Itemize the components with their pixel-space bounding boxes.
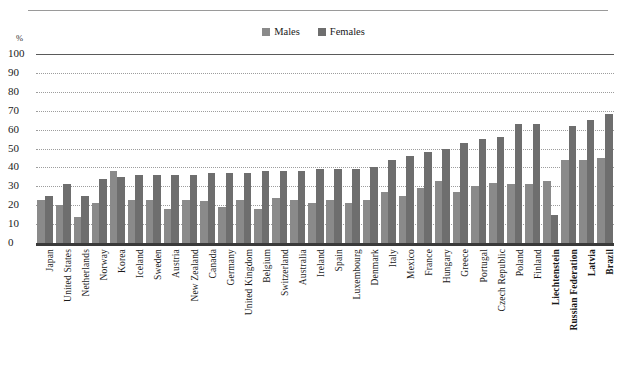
top-rule: [28, 10, 608, 11]
bar-females: [81, 196, 89, 243]
bar-males: [399, 196, 407, 243]
bar-females: [334, 169, 342, 243]
bar-males: [417, 188, 425, 243]
bar-group: [162, 54, 180, 243]
x-axis-label-cell: Canada: [199, 247, 217, 372]
bar-females: [262, 171, 270, 243]
bar-group: [90, 54, 108, 243]
y-tick-label: 90: [8, 67, 34, 78]
bar-males: [182, 200, 190, 243]
bar-group: [343, 54, 361, 243]
x-axis-label-cell: New Zealand: [181, 247, 199, 372]
bar-males: [381, 192, 389, 243]
bar-group: [72, 54, 90, 243]
bar-females: [533, 124, 541, 243]
bar-females: [605, 114, 613, 243]
bar-group: [126, 54, 144, 243]
y-tick-label: 30: [8, 180, 34, 191]
bar-females: [370, 167, 378, 243]
cut-off-title: [28, 0, 608, 8]
bar-females: [515, 124, 523, 243]
bar-females: [244, 173, 252, 243]
x-axis-label-cell: Mexico: [397, 247, 415, 372]
legend-swatch-icon: [262, 28, 270, 36]
x-axis-label-cell: Germany: [217, 247, 235, 372]
y-tick-label: 10: [8, 218, 34, 229]
bar-females: [352, 169, 360, 243]
x-axis-label-cell: Czech Republic: [488, 247, 506, 372]
x-axis-label-cell: Italy: [379, 247, 397, 372]
bar-group: [181, 54, 199, 243]
x-axis-label-cell: Netherlands: [72, 247, 90, 372]
bar-males: [110, 171, 118, 243]
bar-males: [326, 200, 334, 243]
bar-group: [271, 54, 289, 243]
x-axis-labels: JapanUnited StatesNetherlandsNorwayKorea…: [36, 247, 614, 372]
bar-group: [307, 54, 325, 243]
x-axis-label-cell: Luxembourg: [343, 247, 361, 372]
bar-females: [316, 169, 324, 243]
x-axis-line: [36, 243, 614, 246]
bar-group: [379, 54, 397, 243]
x-axis-label-cell: Liechtenstein: [542, 247, 560, 372]
bar-females: [99, 179, 107, 243]
bar-groups: [36, 54, 614, 243]
bar-group: [199, 54, 217, 243]
x-axis-label-cell: Belgium: [253, 247, 271, 372]
bar-females: [551, 215, 559, 243]
bar-females: [45, 196, 53, 243]
x-axis-label: Brazil: [605, 249, 615, 275]
x-axis-label-cell: Austria: [162, 247, 180, 372]
x-axis-label-cell: Denmark: [361, 247, 379, 372]
y-tick-label: 80: [8, 86, 34, 97]
bar-males: [236, 200, 244, 243]
bar-males: [254, 209, 262, 243]
bar-group: [433, 54, 451, 243]
x-axis-label-cell: Iceland: [126, 247, 144, 372]
x-axis-label-cell: Portugal: [470, 247, 488, 372]
bar-females: [479, 139, 487, 243]
bar-males: [345, 203, 353, 243]
bar-females: [388, 160, 396, 243]
y-tick-label: 0: [8, 237, 34, 248]
x-axis-label-cell: Sweden: [144, 247, 162, 372]
y-tick-label: 40: [8, 161, 34, 172]
bar-males: [200, 201, 208, 243]
y-axis-unit-label: %: [16, 33, 23, 43]
bar-females: [208, 173, 216, 243]
chart-legend: MalesFemales: [0, 26, 627, 37]
bar-group: [54, 54, 72, 243]
x-axis-label-cell: France: [415, 247, 433, 372]
x-axis-label-cell: Brazil: [596, 247, 614, 372]
x-axis-label-cell: Hungary: [433, 247, 451, 372]
legend-label: Females: [330, 26, 365, 37]
x-axis-label-cell: Norway: [90, 247, 108, 372]
legend-item-males: Males: [262, 26, 300, 37]
bar-group: [415, 54, 433, 243]
bar-group: [506, 54, 524, 243]
bar-females: [190, 175, 198, 243]
bar-males: [308, 203, 316, 243]
bar-group: [325, 54, 343, 243]
x-axis-label-cell: Poland: [506, 247, 524, 372]
legend-item-females: Females: [318, 26, 365, 37]
bar-females: [569, 126, 577, 243]
bar-females: [424, 152, 432, 243]
bar-females: [135, 175, 143, 243]
x-axis-label-cell: United States: [54, 247, 72, 372]
bar-group: [560, 54, 578, 243]
bar-group: [36, 54, 54, 243]
bar-males: [507, 184, 515, 243]
bar-females: [63, 184, 71, 243]
y-tick-label: 60: [8, 124, 34, 135]
bar-males: [290, 200, 298, 243]
bar-males: [543, 181, 551, 243]
plot-area: [36, 54, 614, 243]
bar-group: [253, 54, 271, 243]
bar-group: [144, 54, 162, 243]
bar-males: [435, 181, 443, 243]
bar-females: [171, 175, 179, 243]
bar-males: [218, 207, 226, 243]
bar-males: [272, 198, 280, 243]
legend-label: Males: [274, 26, 300, 37]
